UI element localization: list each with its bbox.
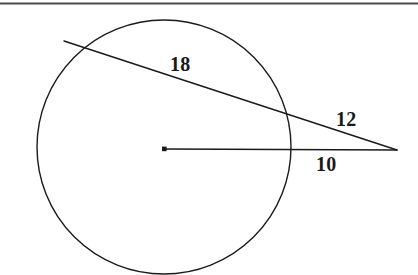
- length-label-secant-external: 12: [336, 109, 356, 129]
- length-label-radius-external: 10: [316, 154, 336, 174]
- geometry-figure: 18 12 10: [0, 0, 418, 275]
- secant-line: [64, 41, 397, 150]
- diagram-canvas: [0, 0, 418, 275]
- radius-line: [164, 149, 397, 150]
- length-label-chord: 18: [170, 54, 190, 74]
- center-point-marker: [162, 147, 167, 152]
